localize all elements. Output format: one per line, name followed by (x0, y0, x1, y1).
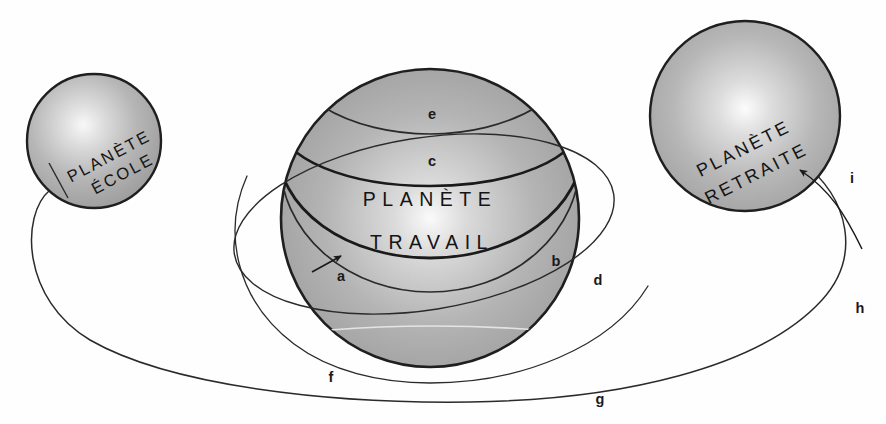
planet-travail-group[interactable]: PLANÈTE TRAVAIL (278, 0, 582, 367)
label-h: h (856, 300, 865, 316)
planet-travail-label-line2: TRAVAIL (370, 231, 494, 253)
label-e: e (428, 106, 436, 122)
label-g: g (596, 391, 605, 407)
label-d: d (594, 272, 603, 288)
label-b: b (552, 253, 561, 269)
label-c: c (428, 153, 436, 169)
label-i: i (850, 170, 854, 186)
diagram-canvas: PLANÈTE ÉCOLE PLANÈTE RETRAITE PLANÈ (0, 0, 886, 424)
planet-orbit-diagram: PLANÈTE ÉCOLE PLANÈTE RETRAITE PLANÈ (0, 0, 886, 424)
label-f: f (329, 369, 334, 385)
label-a: a (337, 268, 346, 284)
planet-ecole-group[interactable]: PLANÈTE ÉCOLE (27, 74, 164, 208)
planet-travail-label-line1: PLANÈTE (363, 188, 497, 210)
planet-retraite-group[interactable]: PLANÈTE RETRAITE (650, 21, 840, 211)
